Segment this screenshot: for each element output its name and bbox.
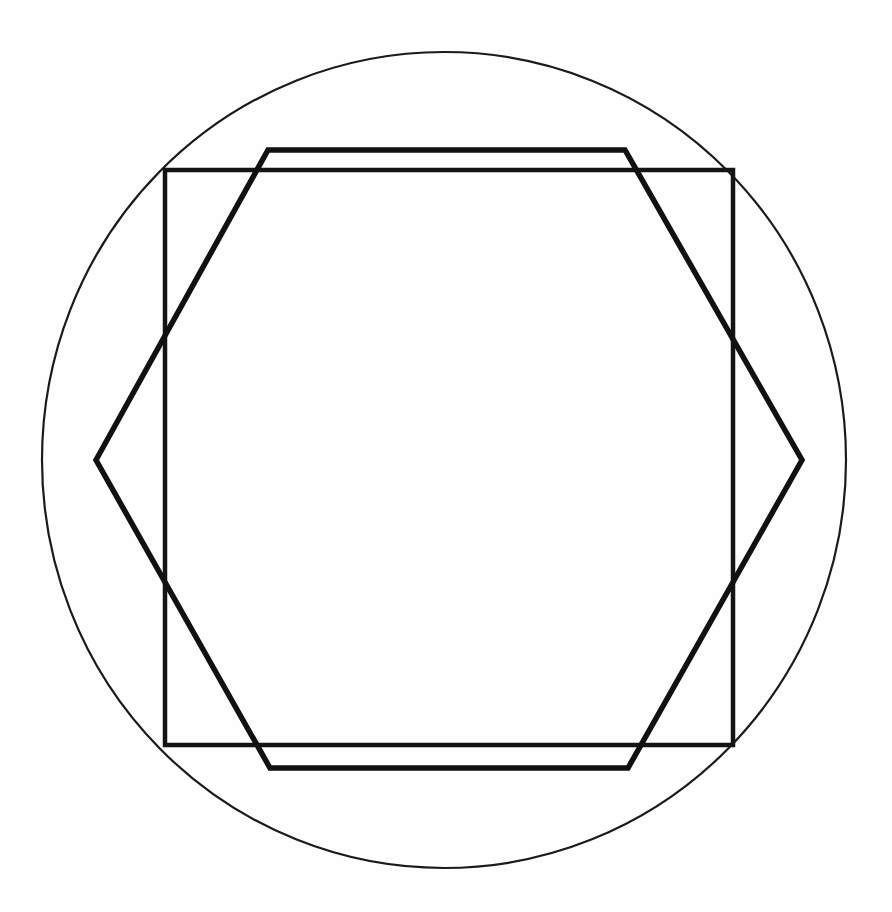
canvas-background <box>0 0 892 912</box>
geometry-diagram <box>0 0 892 912</box>
figure-canvas <box>0 0 892 912</box>
